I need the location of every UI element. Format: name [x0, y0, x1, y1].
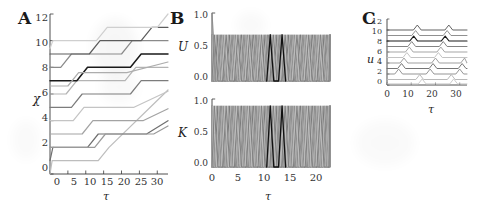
panel-a-ytick: 6 [30, 87, 48, 98]
panel-b-xtick: 20 [309, 172, 323, 183]
panel-c-xtick: 10 [401, 89, 415, 99]
panel-c-ytick: 0 [368, 77, 382, 86]
panel-b-xtick: 5 [231, 172, 245, 183]
panel-a: A χ τ 12 10 8 6 4 2 0 0 5 10 15 20 25 30 [0, 0, 170, 211]
panel-b-upper-ytick: 0.0 [188, 72, 208, 82]
panel-b-upper-ytick: 0.5 [188, 41, 208, 51]
panel-a-xtick: 25 [134, 176, 148, 187]
panel-b-lower-ylabel: K [178, 126, 187, 140]
panel-c-ytick: 10 [368, 27, 382, 36]
panel-b: B U K τ 1.0 0.5 0.0 1.0 0.5 0.0 0 5 10 1… [170, 0, 340, 211]
panel-b-lower-ytick: 0.0 [188, 158, 208, 168]
panel-a-ytick: 10 [30, 37, 48, 48]
panel-b-xtick: 15 [283, 172, 297, 183]
panel-b-upper-ytick: 1.0 [188, 10, 208, 20]
panel-c-xtick: 0 [381, 89, 393, 99]
panel-b-upper-plot [212, 13, 330, 81]
panel-c-xtick: 20 [425, 89, 439, 99]
panel-c-ytick: 2 [368, 67, 382, 76]
panel-a-xtick: 0 [50, 176, 64, 187]
panel-a-xtick: 30 [150, 176, 164, 187]
panel-a-plot [50, 14, 168, 174]
panel-c-ytick: 8 [368, 37, 382, 46]
panel-b-lower-ytick: 1.0 [188, 96, 208, 106]
panel-c-xlabel: τ [428, 103, 434, 116]
panel-c: C u τ 12 10 8 6 4 2 0 0 10 20 30 [340, 0, 490, 211]
panel-a-xtick: 20 [117, 176, 131, 187]
panel-b-xtick: 10 [257, 172, 271, 183]
panel-b-lower-ytick: 0.5 [188, 127, 208, 137]
panel-c-ytick: 12 [368, 17, 382, 26]
panel-a-ytick: 2 [30, 137, 48, 148]
panel-a-ytick: 8 [30, 62, 48, 73]
panel-b-lower-plot [212, 99, 330, 167]
panel-c-ytick: 4 [368, 57, 382, 66]
panel-a-ytick: 0 [30, 162, 48, 173]
panel-b-xtick: 0 [205, 172, 219, 183]
panel-b-xlabel: τ [265, 190, 271, 203]
panel-a-ytick: 4 [30, 112, 48, 123]
panel-a-ytick: 12 [30, 12, 48, 23]
panel-a-xlabel: τ [103, 190, 109, 203]
panel-a-xtick: 5 [67, 176, 81, 187]
panel-c-xtick: 30 [449, 89, 463, 99]
figure-root: A χ τ 12 10 8 6 4 2 0 0 5 10 15 20 25 30… [0, 0, 490, 211]
panel-c-ytick: 6 [368, 47, 382, 56]
panel-a-xtick: 10 [83, 176, 97, 187]
panel-b-upper-ylabel: U [178, 40, 188, 54]
panel-c-plot [387, 19, 467, 85]
panel-a-xtick: 15 [100, 176, 114, 187]
panel-b-letter: B [170, 8, 184, 28]
